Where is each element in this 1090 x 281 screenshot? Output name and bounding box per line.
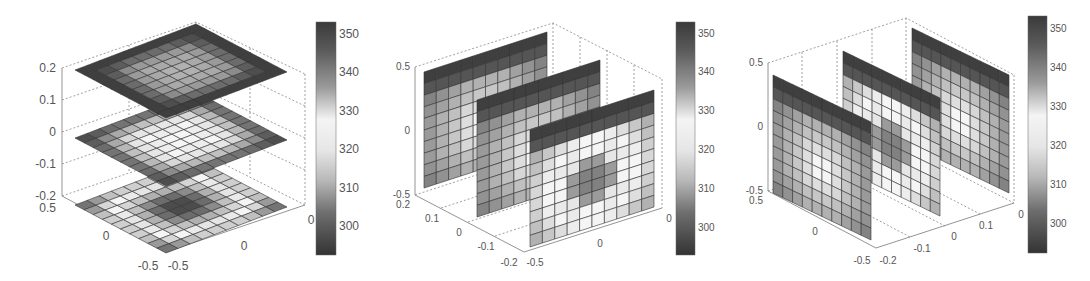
colorbar-tick: 350 <box>1050 23 1067 34</box>
y-tick: 0 <box>666 213 672 224</box>
colorbar-tick: 330 <box>698 105 715 116</box>
slice-plots-figure: 0.2 0.1 0 -0.1 -0.2 0.5 0 -0.5 -0.5 0 0 … <box>0 0 1090 281</box>
colorbar-tick: 320 <box>339 142 359 156</box>
y-tick: -0.5 <box>168 259 189 273</box>
x-tick: -0.5 <box>138 259 159 273</box>
y-tick: 0.1 <box>979 220 993 231</box>
panel-2-colorbar: 350 340 330 320 310 300 <box>676 22 715 255</box>
panel-3-xz-slices: 0.5 0 -0.5 0.5 0 -0.5 -0.2 -0.1 0 0.1 0 … <box>746 16 1067 266</box>
colorbar-tick: 340 <box>339 65 359 79</box>
x-tick: 0 <box>812 226 818 237</box>
z-tick: -0.1 <box>35 157 56 171</box>
colorbar-tick: 340 <box>698 66 715 77</box>
x-tick: -0.2 <box>500 257 518 268</box>
colorbar-tick: 320 <box>1050 140 1067 151</box>
colorbar-tick: 310 <box>698 183 715 194</box>
x-tick: 0.5 <box>39 201 56 215</box>
colorbar-tick: 300 <box>1050 218 1067 229</box>
colorbar-tick: 330 <box>339 104 359 118</box>
colorbar-tick: 350 <box>339 27 359 41</box>
colorbar-tick: 300 <box>339 219 359 233</box>
z-tick: 0.5 <box>396 61 410 72</box>
z-tick: 0.1 <box>39 93 56 107</box>
y-tick: 0 <box>597 238 603 249</box>
z-tick: 0.5 <box>749 57 763 68</box>
x-tick: 0.5 <box>749 195 763 206</box>
colorbar-tick: 320 <box>698 144 715 155</box>
panel-2-yz-slices: 0.5 0 -0.5 0.2 0.1 0 -0.1 -0.2 -0.5 0 0 … <box>393 22 715 268</box>
colorbar-tick: 310 <box>339 181 359 195</box>
panel-3-colorbar: 350 340 330 320 310 300 <box>1028 16 1067 253</box>
x-tick: -0.1 <box>477 241 495 252</box>
panel-1-slice-surfaces <box>75 24 287 253</box>
y-tick: -0.2 <box>879 255 897 266</box>
horizontal-slice-z-0-2 <box>75 24 287 118</box>
y-tick: 0 <box>1018 209 1024 220</box>
colorbar-tick: 310 <box>1050 179 1067 190</box>
z-tick: 0 <box>757 121 763 132</box>
colorbar-tick: 300 <box>698 222 715 233</box>
colorbar-tick: 340 <box>1050 62 1067 73</box>
panel-1-colorbar: 350 340 330 320 310 300 <box>316 22 359 255</box>
x-tick: 0.1 <box>425 213 439 224</box>
y-tick: 0 <box>241 239 248 253</box>
x-tick: 0 <box>103 229 110 243</box>
y-tick: 0 <box>951 231 957 242</box>
colorbar-tick: 330 <box>1050 101 1067 112</box>
z-tick: 0 <box>404 125 410 136</box>
x-tick: 0.2 <box>396 199 410 210</box>
z-tick: 0 <box>49 125 56 139</box>
panel-2-slice-surfaces <box>424 32 654 247</box>
colorbar-tick: 350 <box>698 28 715 39</box>
y-tick: -0.5 <box>526 257 544 268</box>
x-tick: -0.5 <box>853 255 871 266</box>
x-tick: 0 <box>456 227 462 238</box>
y-tick: -0.1 <box>913 243 931 254</box>
panel-1-horizontal-slices: 0.2 0.1 0 -0.1 -0.2 0.5 0 -0.5 -0.5 0 0 … <box>35 22 359 273</box>
y-tick: 0 <box>308 213 315 227</box>
panel-3-slice-surfaces <box>773 28 1009 240</box>
z-tick: 0.2 <box>39 61 56 75</box>
